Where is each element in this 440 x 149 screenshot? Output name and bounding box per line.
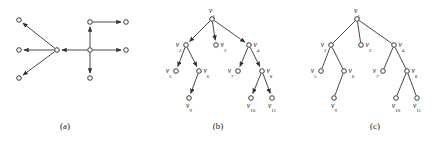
edge-v2-v6 [332, 47, 343, 68]
caption-panel-b: (b) [198, 121, 238, 131]
node-a8 [124, 20, 129, 25]
node-label-v10: v10 [392, 101, 401, 113]
node-v3 [214, 43, 219, 48]
node-v5 [174, 69, 179, 74]
edge-v6-v9 [335, 74, 343, 96]
node-label-v7: v7 [228, 66, 234, 78]
node-label-v1: v1 [209, 6, 215, 18]
edge-v1-v3 [212, 22, 215, 40]
node-label-v10: v10 [247, 101, 256, 113]
panel-b-edge-group [178, 21, 271, 94]
node-label-v4: v4 [254, 40, 260, 52]
panel-a-edge-group [23, 22, 121, 75]
edge-v2-v6 [187, 47, 197, 66]
panel-c-edge-group [322, 21, 416, 96]
node-a5 [88, 48, 93, 53]
node-label-v3: v3 [221, 40, 227, 52]
node-v7 [381, 69, 386, 74]
node-label-v4: v4 [399, 40, 405, 52]
node-v3 [359, 43, 364, 48]
node-label-v9: v9 [331, 101, 337, 113]
node-label-v11: v11 [268, 101, 277, 113]
node-label-v8: v8 [412, 66, 418, 78]
panel-b-label-group: v1v2v3v4v5v6v7v8v9v10v11 [166, 6, 277, 112]
node-v4 [247, 43, 252, 48]
panel-c-label-group: v1v2v3v4v5v6v7v8v9v10v11 [311, 6, 422, 112]
node-label-v1: v1 [354, 6, 360, 18]
node-label-v2: v2 [176, 40, 182, 52]
node-label-v11: v11 [413, 101, 422, 113]
edge-v1-v4 [359, 21, 392, 44]
panel-b-node-group [174, 17, 275, 101]
node-label-v8: v8 [267, 66, 273, 78]
node-v7 [236, 69, 241, 74]
edge-v8-v10 [253, 74, 261, 94]
node-a6 [88, 20, 93, 25]
node-v6 [342, 69, 347, 74]
panel-c-node-group [319, 17, 420, 101]
node-a3 [17, 76, 22, 81]
node-a9 [124, 48, 129, 53]
node-label-v7: v7 [373, 66, 379, 78]
node-label-v5: v5 [311, 66, 317, 78]
caption-panel-c: (c) [355, 121, 395, 131]
edge-a4-a1 [23, 23, 55, 48]
edge-v8-v10 [397, 74, 406, 96]
node-label-v5: v5 [166, 66, 172, 78]
node-label-v3: v3 [366, 40, 372, 52]
edge-a4-a3 [23, 52, 55, 75]
node-a4 [55, 48, 60, 53]
edge-v6-v9 [191, 74, 198, 94]
figure-container: v1v2v3v4v5v6v7v8v9v10v11 v1v2v3v4v5v6v7v… [0, 0, 440, 149]
node-label-v2: v2 [321, 40, 327, 52]
edge-v1-v2 [333, 21, 355, 43]
node-v4 [392, 43, 397, 48]
caption-panel-a: (a) [45, 121, 85, 131]
node-label-v9: v9 [186, 101, 192, 113]
edge-v1-v3 [357, 22, 360, 43]
node-v6 [197, 69, 202, 74]
node-label-v6: v6 [204, 66, 210, 78]
node-v2 [184, 43, 189, 48]
edge-v4-v7 [240, 47, 248, 66]
panel-b-rooted-tree-directed: v1v2v3v4v5v6v7v8v9v10v11 [150, 0, 295, 130]
node-label-v6: v6 [349, 66, 355, 78]
node-a7 [88, 76, 93, 81]
edge-v1-v4 [214, 21, 245, 43]
node-a2 [17, 48, 22, 53]
edge-v4-v7 [384, 47, 393, 68]
panel-c-rooted-tree-undirected: v1v2v3v4v5v6v7v8v9v10v11 [295, 0, 440, 130]
node-a1 [17, 18, 22, 23]
panel-a-node-group [17, 18, 129, 81]
node-v5 [319, 69, 324, 74]
edge-v1-v2 [189, 21, 210, 42]
node-v8 [405, 69, 410, 74]
node-v2 [329, 43, 334, 48]
node-v8 [260, 69, 265, 74]
panel-a-directed-graph [0, 0, 150, 130]
